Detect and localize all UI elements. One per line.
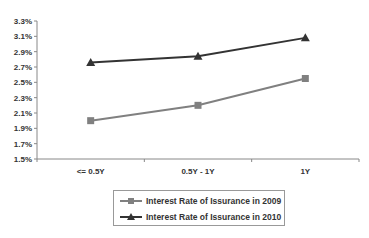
square-marker-icon <box>195 102 202 109</box>
series-2010 <box>86 33 310 66</box>
x-tick-label: 1Y <box>300 167 310 176</box>
y-tick-label: 1.7% <box>14 140 32 149</box>
x-axis: <= 0.5Y0.5Y - 1Y1Y <box>37 159 359 176</box>
y-tick-label: 1.9% <box>14 124 32 133</box>
triangle-marker-icon <box>120 211 142 223</box>
y-tick-label: 3.1% <box>14 32 32 41</box>
y-tick-label: 1.5% <box>14 155 32 164</box>
square-marker-icon <box>120 195 142 207</box>
series-layer <box>86 33 310 124</box>
legend-label-2009: Interest Rate of Issurance in 2009 <box>146 196 281 206</box>
y-tick-label: 2.7% <box>14 63 32 72</box>
x-tick-label: <= 0.5Y <box>77 167 106 176</box>
y-tick-label: 2.9% <box>14 48 32 57</box>
legend-label-2010: Interest Rate of Issurance in 2010 <box>146 212 281 222</box>
x-tick-label: 0.5Y - 1Y <box>181 167 215 176</box>
y-tick-label: 2.3% <box>14 94 32 103</box>
series-2009 <box>87 75 309 124</box>
y-tick-label: 2.5% <box>14 78 32 87</box>
square-marker-icon <box>87 117 94 124</box>
legend-item-2010: Interest Rate of Issurance in 2010 <box>120 210 281 224</box>
y-tick-label: 3.3% <box>14 17 32 26</box>
y-tick-label: 2.1% <box>14 109 32 118</box>
legend-item-2009: Interest Rate of Issurance in 2009 <box>120 194 281 208</box>
square-marker-icon <box>302 75 309 82</box>
legend: Interest Rate of Issurance in 2009 Inter… <box>113 190 285 226</box>
triangle-marker-icon <box>301 33 310 41</box>
y-axis: 3.3%3.1%2.9%2.7%2.5%2.3%2.1%1.9%1.7%1.5% <box>14 17 37 164</box>
